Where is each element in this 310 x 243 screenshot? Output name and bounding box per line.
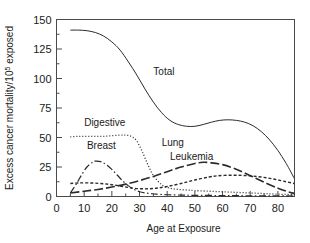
x-tick-label: 70 xyxy=(244,202,256,214)
x-tick-label: 20 xyxy=(106,202,118,214)
y-tick-label: 150 xyxy=(33,14,51,26)
x-tick-label: 50 xyxy=(189,202,201,214)
plot-frame xyxy=(57,20,295,197)
x-tick-label: 0 xyxy=(53,202,59,214)
series-label-total: Total xyxy=(153,66,174,77)
y-tick-label: 125 xyxy=(33,43,51,55)
x-tick-label: 80 xyxy=(272,202,284,214)
x-tick-label: 40 xyxy=(161,202,173,214)
x-axis-title: Age at Exposure xyxy=(147,223,221,234)
y-tick-label: 100 xyxy=(33,73,51,85)
series-line-leukemia xyxy=(70,175,294,189)
series-label-digestive: Digestive xyxy=(84,117,126,128)
series-label-lung: Lung xyxy=(162,137,184,148)
x-tick-label: 60 xyxy=(216,202,228,214)
y-tick-label: 0 xyxy=(45,191,51,203)
y-tick-label: 75 xyxy=(39,102,51,114)
series-label-leukemia: Leukemia xyxy=(170,151,214,162)
excess-cancer-mortality-line-chart: 010203040506070800255075100125150TotalDi… xyxy=(0,0,310,243)
series-line-lung xyxy=(70,162,294,193)
y-tick-label: 25 xyxy=(39,161,51,173)
y-axis-title: Excess cancer mortality/105 exposed xyxy=(4,26,16,190)
series-label-breast: Breast xyxy=(87,140,116,151)
x-tick-label: 30 xyxy=(133,202,145,214)
chart-container: 010203040506070800255075100125150TotalDi… xyxy=(0,0,310,243)
y-tick-label: 50 xyxy=(39,132,51,144)
x-tick-label: 10 xyxy=(78,202,90,214)
